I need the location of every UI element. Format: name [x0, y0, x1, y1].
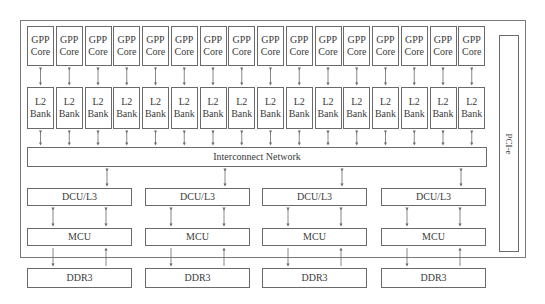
connection-arrows	[0, 0, 545, 304]
